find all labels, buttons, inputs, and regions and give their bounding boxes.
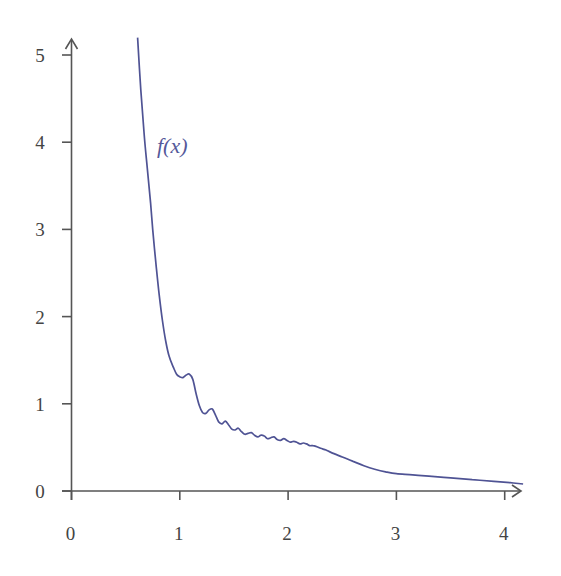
y-tick-label: 4 (35, 132, 45, 153)
y-tick-label: 0 (35, 481, 45, 502)
x-ticks: 01234 (66, 491, 509, 544)
x-tick-label: 1 (174, 523, 184, 544)
y-tick-label: 2 (35, 307, 45, 328)
x-tick-label: 4 (499, 523, 509, 544)
x-tick-label: 3 (391, 523, 401, 544)
y-ticks: 012345 (35, 45, 71, 502)
x-tick-label: 2 (282, 523, 292, 544)
axes (62, 39, 521, 500)
function-curve (138, 38, 523, 484)
y-tick-label: 5 (35, 45, 45, 66)
function-label: f(x) (157, 133, 188, 158)
x-tick-label: 0 (66, 523, 76, 544)
chart: 01234 012345 f(x) (0, 0, 561, 576)
y-tick-label: 3 (35, 219, 45, 240)
y-tick-label: 1 (35, 394, 45, 415)
